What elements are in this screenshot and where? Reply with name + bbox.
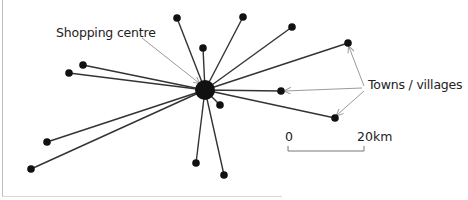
shopping-centre-label: Shopping centre [56,25,156,40]
town-node [277,87,285,95]
scale-end-label: 20km [357,129,392,144]
scale-start-label: 0 [285,129,293,144]
shopping-centre-node [195,80,215,100]
spoke-line [47,90,205,142]
town-node [220,171,228,179]
town-node [173,14,181,22]
town-node [199,44,207,52]
spoke-line [205,27,292,90]
town-node [192,159,200,167]
towns-pointer-2 [285,88,362,91]
towns-villages-label: Towns / villages [368,77,462,92]
shopping-centre-pointer [142,38,199,83]
town-node [288,23,296,31]
town-node [79,61,87,69]
towns-pointer-1 [349,47,364,86]
town-node [27,165,35,173]
town-node [331,114,339,122]
scale-bar [288,146,364,151]
towns-pointer-3 [337,91,364,115]
spoke-line [196,90,205,163]
town-node [239,13,247,21]
spoke-line [31,90,205,169]
spoke-line [177,18,205,90]
town-node [65,69,73,77]
town-node [216,101,224,109]
spoke-line [205,90,281,91]
town-node [43,138,51,146]
town-node [344,39,352,47]
spoke-line [205,90,335,118]
